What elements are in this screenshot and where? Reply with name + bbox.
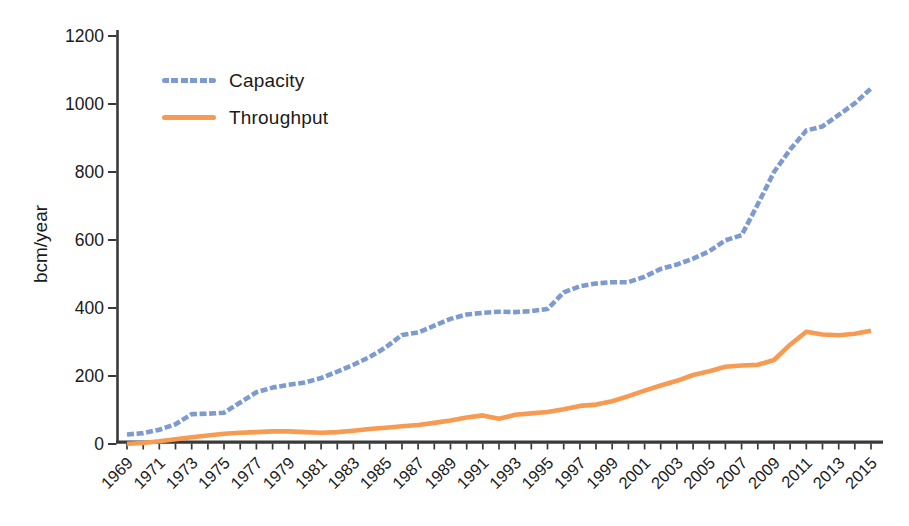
y-tick-label: 600 <box>75 230 104 250</box>
line-chart: 0200400600800100012001969197119731975197… <box>0 0 909 526</box>
y-tick-label: 800 <box>75 162 104 182</box>
x-tick-label: 1981 <box>292 453 331 492</box>
capacity-line <box>127 88 871 434</box>
x-tick-label: 1971 <box>130 453 169 492</box>
x-tick-label: 1987 <box>389 453 428 492</box>
x-tick-label: 2015 <box>841 453 880 492</box>
legend: Capacity Throughput <box>162 70 328 128</box>
x-tick-label: 1983 <box>324 453 363 492</box>
x-tick-label: 2013 <box>809 453 848 492</box>
x-tick-label: 1997 <box>550 453 589 492</box>
x-tick-label: 1977 <box>227 453 266 492</box>
x-tick-label: 1969 <box>97 453 136 492</box>
y-tick-label: 1200 <box>65 26 104 46</box>
x-tick-label: 1973 <box>162 453 201 492</box>
y-tick-label: 200 <box>75 366 104 386</box>
x-tick-label: 2007 <box>712 453 751 492</box>
x-tick-label: 1985 <box>356 453 395 492</box>
x-tick-label: 2011 <box>778 453 816 491</box>
y-tick-label: 0 <box>94 434 104 454</box>
x-tick-label: 1993 <box>486 453 525 492</box>
chart-canvas: 0200400600800100012001969197119731975197… <box>0 0 909 526</box>
throughput-line-swatch-icon <box>162 115 216 120</box>
legend-label-capacity: Capacity <box>229 70 305 92</box>
x-tick-label: 1975 <box>194 453 233 492</box>
x-tick-label: 2001 <box>615 453 654 492</box>
legend-label-throughput: Throughput <box>229 107 328 129</box>
throughput-line <box>127 331 871 444</box>
legend-item-capacity: Capacity <box>162 70 328 91</box>
x-tick-label: 1999 <box>583 453 622 492</box>
capacity-line-swatch-icon <box>162 78 216 83</box>
x-tick-label: 1989 <box>421 453 460 492</box>
y-tick-label: 1000 <box>65 94 104 114</box>
x-tick-label: 2003 <box>647 453 686 492</box>
x-tick-label: 1979 <box>259 453 298 492</box>
x-tick-label: 2005 <box>680 453 719 492</box>
y-tick-label: 400 <box>75 298 104 318</box>
x-tick-label: 1995 <box>518 453 557 492</box>
x-tick-label: 2009 <box>744 453 783 492</box>
legend-item-throughput: Throughput <box>162 107 328 128</box>
x-tick-label: 1991 <box>453 453 492 492</box>
y-axis-title: bcm/year <box>30 173 58 315</box>
